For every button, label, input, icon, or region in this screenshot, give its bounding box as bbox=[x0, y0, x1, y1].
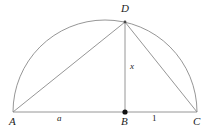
semicircle-arc-group bbox=[13, 20, 197, 112]
segment-label-ab: a bbox=[57, 114, 62, 123]
point-D-marker bbox=[124, 21, 127, 24]
vertex-label-A: A bbox=[9, 116, 16, 127]
segment-AD bbox=[13, 22, 125, 112]
geometry-diagram: A B C D a 1 x bbox=[0, 0, 210, 131]
vertex-label-D: D bbox=[121, 3, 129, 14]
semicircle-arc bbox=[13, 20, 197, 112]
point-B-marker bbox=[122, 109, 127, 114]
diagram-canvas bbox=[0, 0, 210, 131]
segment-DC bbox=[125, 22, 197, 112]
segment-label-bc: 1 bbox=[152, 114, 157, 123]
vertex-label-C: C bbox=[193, 116, 200, 127]
segment-label-bd: x bbox=[130, 62, 134, 71]
vertex-label-B: B bbox=[121, 116, 128, 127]
triangle-lines-group bbox=[13, 22, 197, 112]
